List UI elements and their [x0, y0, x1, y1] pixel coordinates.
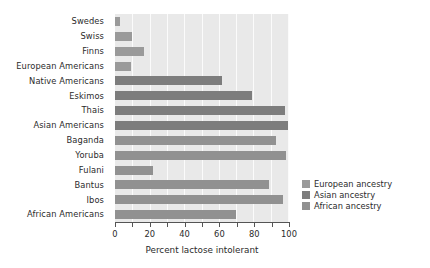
bar-row: [115, 163, 288, 178]
axis-tick: [254, 222, 255, 227]
x-axis-ticks: [115, 222, 289, 227]
bar-row: [115, 118, 288, 133]
axis-tick-label: 60: [214, 228, 225, 240]
axis-tick: [150, 222, 151, 227]
category-label: Baganda: [0, 133, 110, 148]
bar: [115, 32, 132, 41]
bar-row: [115, 103, 288, 118]
bar: [115, 195, 283, 204]
legend-swatch-icon: [302, 191, 310, 199]
category-label: Fulani: [0, 163, 110, 178]
bar-row: [115, 73, 288, 88]
axis-tick: [237, 222, 238, 227]
bar-row: [115, 29, 288, 44]
bar: [115, 121, 288, 130]
category-label: European Americans: [0, 59, 110, 74]
bar-row: [115, 133, 288, 148]
category-label: Yoruba: [0, 148, 110, 163]
bar-row: [115, 192, 288, 207]
bar: [115, 47, 144, 56]
category-axis-labels: SwedesSwissFinnsEuropean AmericansNative…: [0, 14, 110, 222]
legend-item: Asian ancestry: [302, 191, 392, 199]
category-label: Bantus: [0, 177, 110, 192]
bar-row: [115, 207, 288, 222]
bar: [115, 62, 131, 71]
bar-row: [115, 44, 288, 59]
category-label: Ibos: [0, 192, 110, 207]
bar: [115, 91, 252, 100]
bar: [115, 180, 269, 189]
legend-item: European ancestry: [302, 180, 392, 188]
axis-tick: [185, 222, 186, 227]
axis-tick-label: 20: [145, 228, 156, 240]
bar-row: [115, 177, 288, 192]
category-label: African Americans: [0, 207, 110, 222]
legend-label: Asian ancestry: [314, 191, 375, 199]
bar: [115, 106, 285, 115]
bar: [115, 210, 236, 219]
axis-tick-label: 0: [112, 228, 117, 240]
category-label: Swedes: [0, 14, 110, 29]
legend-item: African ancestry: [302, 202, 392, 210]
legend-swatch-icon: [302, 180, 310, 188]
axis-tick: [167, 222, 168, 227]
legend-label: European ancestry: [314, 180, 392, 188]
category-label: Asian Americans: [0, 118, 110, 133]
axis-tick: [219, 222, 220, 227]
bar-series-container: [115, 14, 288, 222]
bar-row: [115, 148, 288, 163]
category-label: Swiss: [0, 29, 110, 44]
axis-tick: [289, 222, 290, 227]
axis-tick: [132, 222, 133, 227]
axis-tick-label: 80: [249, 228, 260, 240]
category-label: Eskimos: [0, 88, 110, 103]
bar-row: [115, 14, 288, 29]
bar: [115, 136, 276, 145]
x-axis-tick-labels: 020406080100: [115, 228, 289, 240]
gridline: [288, 14, 289, 222]
category-label: Finns: [0, 44, 110, 59]
bar: [115, 17, 120, 26]
bar-row: [115, 59, 288, 74]
legend-label: African ancestry: [314, 202, 381, 210]
bar-row: [115, 88, 288, 103]
category-label: Native Americans: [0, 73, 110, 88]
plot-area: [115, 14, 288, 222]
axis-tick: [115, 222, 116, 227]
axis-tick-label: 40: [179, 228, 190, 240]
bar: [115, 76, 222, 85]
axis-tick-label: 100: [281, 228, 297, 240]
category-label: Thais: [0, 103, 110, 118]
axis-tick: [202, 222, 203, 227]
lactose-intolerance-bar-chart: SwedesSwissFinnsEuropean AmericansNative…: [0, 0, 430, 268]
bar: [115, 151, 286, 160]
x-axis-title: Percent lactose intolerant: [115, 245, 289, 255]
bar: [115, 166, 153, 175]
chart-legend: European ancestryAsian ancestryAfrican a…: [302, 180, 392, 210]
legend-swatch-icon: [302, 202, 310, 210]
axis-tick: [272, 222, 273, 227]
